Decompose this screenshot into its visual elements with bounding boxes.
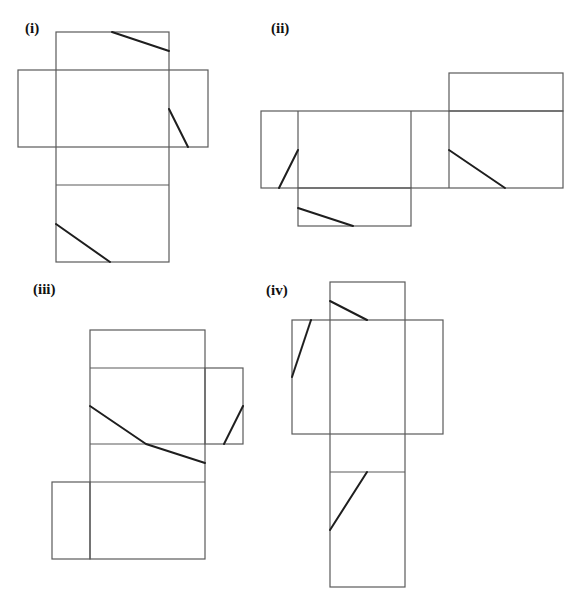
net-label-iii: (iii)	[33, 281, 56, 298]
net-ii-top-face	[449, 73, 563, 111]
net-iii: (iii)	[33, 281, 243, 559]
net-ii-segment-right	[449, 150, 505, 188]
net-ii-main-row	[261, 111, 563, 188]
net-i-cross-row	[18, 70, 208, 147]
nets-diagram: (i) (ii) (iii) (iv)	[0, 0, 575, 603]
net-ii: (ii)	[261, 20, 563, 226]
net-ii-bottom-face	[298, 188, 411, 226]
net-label-ii: (ii)	[271, 20, 289, 37]
net-ii-segment-bottom	[298, 208, 353, 226]
net-iv-cross-row	[292, 320, 443, 434]
net-i-segment-top	[112, 32, 169, 51]
net-i-segment-right	[169, 109, 188, 147]
net-label-iv: (iv)	[266, 282, 288, 299]
net-iv: (iv)	[266, 282, 443, 587]
net-ii-segment-left	[279, 150, 298, 188]
net-i: (i)	[18, 20, 208, 262]
net-label-i: (i)	[25, 20, 39, 37]
net-iv-segment-top	[330, 301, 367, 320]
net-iv-segment-left	[292, 320, 311, 377]
net-iv-segment-bottom	[330, 472, 367, 530]
net-iii-left-flap	[52, 482, 90, 559]
net-i-segment-bottom	[56, 224, 110, 262]
net-iii-segment-right	[224, 406, 243, 444]
net-iii-segment-middle	[90, 406, 205, 463]
net-iii-right-flap	[205, 368, 243, 444]
